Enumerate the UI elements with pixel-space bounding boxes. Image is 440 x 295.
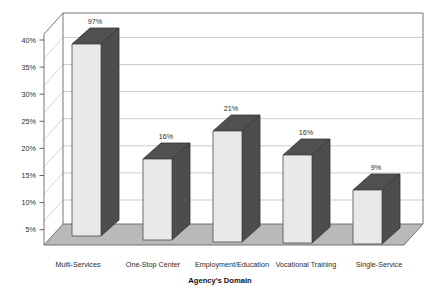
bar-side-face	[312, 139, 330, 243]
x-category-label: Vocational Training	[276, 260, 337, 269]
bar-front-face	[72, 44, 101, 236]
bar-value-label: 21%	[224, 104, 239, 113]
x-category-label: Multi-Services	[55, 260, 101, 269]
bar-value-label: 97%	[88, 17, 103, 26]
x-category-label: Employment/Education	[195, 260, 269, 269]
y-tick-label: 25%	[22, 117, 37, 126]
bar-front-face	[143, 159, 172, 240]
bar-front-face	[283, 155, 312, 243]
y-tick-label: 5%	[26, 225, 37, 234]
x-axis-labels: Multi-Services One-Stop Center Employmen…	[55, 260, 402, 269]
y-tick-label: 15%	[22, 171, 37, 180]
x-axis-title: Agency's Domain	[188, 276, 252, 285]
bar-value-label: 16%	[159, 132, 174, 141]
y-axis-ticks	[40, 40, 45, 230]
bar-group: 97%	[72, 17, 119, 236]
bar-value-label: 9%	[371, 163, 382, 172]
bar-side-face	[172, 143, 190, 240]
y-tick-label: 35%	[22, 63, 37, 72]
bar-side-face	[242, 115, 260, 242]
bar-front-face	[353, 190, 382, 244]
bar-front-face	[213, 131, 242, 242]
bar-group: 21%	[213, 104, 260, 242]
y-tick-label: 10%	[22, 198, 37, 207]
x-category-label: One-Stop Center	[126, 260, 181, 269]
y-axis-labels: 40% 35% 30% 25% 20% 15% 10% 5%	[22, 36, 37, 235]
bar-chart-svg: 40% 35% 30% 25% 20% 15% 10% 5% 97% 16%	[0, 0, 440, 295]
x-category-label: Single-Service	[356, 260, 402, 269]
chart-container: 40% 35% 30% 25% 20% 15% 10% 5% 97% 16%	[0, 0, 440, 295]
bar-side-face	[101, 28, 119, 236]
y-tick-label: 40%	[22, 36, 37, 45]
bar-value-label: 16%	[299, 128, 314, 137]
floor-front-edge	[44, 245, 404, 249]
y-tick-label: 30%	[22, 90, 37, 99]
y-tick-label: 20%	[22, 144, 37, 153]
